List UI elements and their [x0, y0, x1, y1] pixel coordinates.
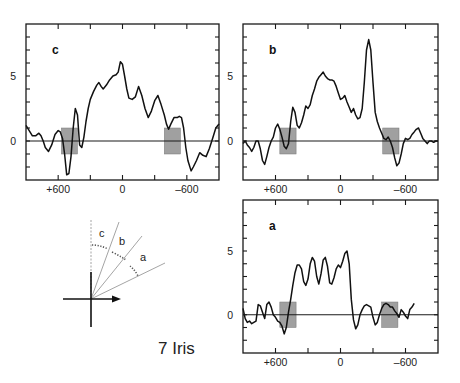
figure-caption: 7 Iris [158, 339, 195, 358]
panel-label: a [269, 219, 276, 233]
diagram-arc-a [130, 266, 138, 276]
panel-a-plot: +6000–60005a [227, 200, 438, 368]
y-tick-label: 5 [10, 70, 16, 82]
x-tick-label: –600 [394, 356, 418, 368]
diagram-label-b: b [119, 235, 125, 247]
panel-c-plot: +6000–60005c [10, 24, 219, 195]
x-tick-label: +600 [46, 183, 70, 195]
x-tick-label: +600 [264, 356, 288, 368]
diagram-label-a: a [140, 251, 147, 263]
panel-label: c [52, 43, 59, 57]
y-tick-label: 0 [227, 309, 233, 321]
diagram-label-c: c [99, 227, 105, 239]
x-tick-label: –600 [394, 183, 418, 195]
y-tick-label: 5 [227, 245, 233, 257]
y-tick-label: 0 [10, 135, 16, 147]
x-tick-label: 0 [120, 183, 126, 195]
x-tick-label: +600 [264, 183, 288, 195]
x-tick-label: 0 [338, 183, 344, 195]
x-tick-label: 0 [338, 356, 344, 368]
arrow-right-icon [112, 296, 121, 303]
profile-curve [243, 40, 438, 166]
panel-b-plot: +6000–60005b [227, 24, 438, 195]
figure-canvas: +6000–60005c +6000–60005b +6000–60005a c… [0, 0, 460, 383]
profile-curve [26, 62, 219, 175]
y-tick-label: 5 [227, 70, 233, 82]
y-tick-label: 0 [227, 135, 233, 147]
orientation-diagram: c b a [63, 220, 165, 327]
diagram-arc-c [92, 245, 108, 249]
panel-label: b [269, 43, 276, 57]
x-tick-label: –600 [175, 183, 199, 195]
